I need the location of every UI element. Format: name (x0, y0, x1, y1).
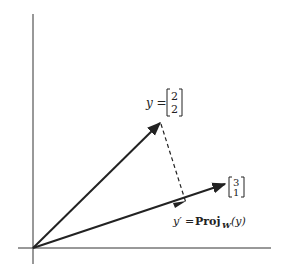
svg-text:(y): (y) (231, 215, 246, 228)
svg-text:1: 1 (233, 187, 239, 198)
projection-arrowhead (173, 201, 186, 208)
svg-text:y′: y′ (172, 215, 182, 228)
vector-y-matrix: 2 2 (167, 89, 182, 116)
projection-label: y′ = Proj W (y) (172, 215, 246, 230)
svg-text:2: 2 (171, 103, 178, 116)
svg-text:2: 2 (171, 90, 178, 103)
vector-y-label: y = (145, 96, 167, 110)
perpendicular-dashed-line (161, 124, 186, 203)
projection-diagram: y = 2 2 3 1 y′ = Proj W (y) (0, 0, 283, 274)
svg-text:=: = (185, 215, 194, 228)
vector-w-matrix: 3 1 (229, 177, 244, 198)
vector-y-arrow (33, 123, 160, 248)
svg-text:Proj: Proj (195, 215, 220, 228)
